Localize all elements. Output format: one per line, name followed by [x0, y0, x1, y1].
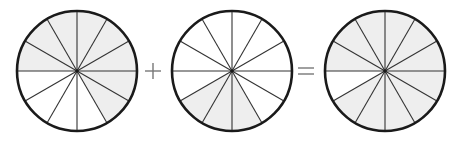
diagram-canvas: [0, 0, 460, 142]
center-dot: [383, 69, 387, 73]
center-dot: [75, 69, 79, 73]
circle-3: [325, 11, 445, 131]
center-dot: [230, 69, 234, 73]
plus-sign: [145, 63, 161, 79]
fraction-diagram: [0, 0, 460, 142]
circle-2: [172, 11, 292, 131]
circle-1: [17, 11, 137, 131]
equals-sign: [298, 68, 314, 74]
